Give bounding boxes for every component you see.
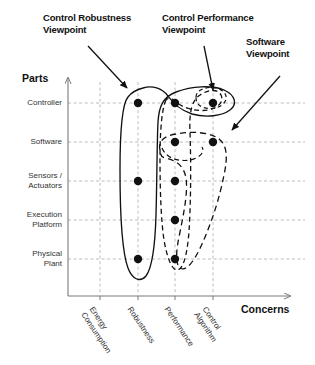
x-axis-ticks xyxy=(100,296,213,300)
data-point xyxy=(134,255,142,263)
y-axis-title: Parts xyxy=(22,72,48,84)
callout-label-software: Software Viewpoint xyxy=(246,36,289,60)
data-point xyxy=(171,255,179,263)
callout-arrow-software xyxy=(232,76,280,130)
data-point xyxy=(171,99,179,107)
data-point xyxy=(134,99,142,107)
data-point xyxy=(171,216,179,224)
callout-arrow-control-performance xyxy=(204,46,213,90)
data-point xyxy=(134,177,142,185)
region-software-inner-hook xyxy=(162,147,203,161)
y-tick-label-controller: Controller xyxy=(4,98,62,108)
viewpoint-diagram: Control Robustness Viewpoint Control Per… xyxy=(0,0,315,365)
x-axis-title: Concerns xyxy=(241,303,289,315)
y-tick-label-execution-platform: Execution Platform xyxy=(4,210,62,229)
callout-label-control-robustness: Control Robustness Viewpoint xyxy=(43,12,131,36)
data-point xyxy=(209,138,217,146)
y-tick-label-physical-plant: Physical Plant xyxy=(4,249,62,268)
y-tick-label-software: Software xyxy=(4,137,62,147)
callout-label-control-performance: Control Performance Viewpoint xyxy=(162,12,254,36)
data-point xyxy=(209,99,217,107)
y-tick-label-sensors-actuators: Sensors / Actuators xyxy=(4,171,62,190)
data-point xyxy=(171,138,179,146)
region-software xyxy=(160,132,227,268)
callout-arrow-control-robustness xyxy=(88,46,127,88)
data-point xyxy=(171,177,179,185)
